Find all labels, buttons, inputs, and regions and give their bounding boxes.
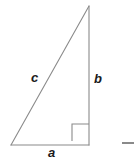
label-side-a: a	[48, 146, 55, 159]
label-side-c: c	[31, 71, 38, 84]
right-angle-square-icon	[72, 124, 89, 141]
triangle-figure: c b a	[0, 0, 135, 161]
label-side-b: b	[94, 72, 102, 85]
edge-dash-mark	[122, 142, 134, 144]
triangle-diagram-svg	[0, 0, 135, 161]
